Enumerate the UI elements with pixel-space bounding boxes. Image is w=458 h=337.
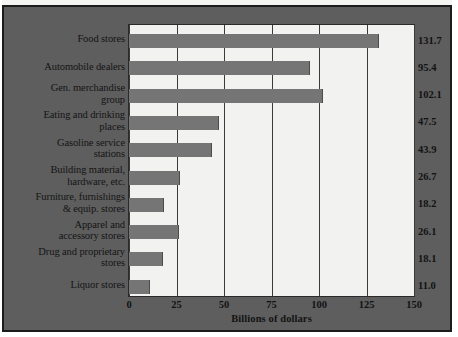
x-tick-label-100: 100 [311,299,327,311]
x-tick-label-125: 125 [359,299,375,311]
bar [129,280,150,294]
category-label-line: Building material, [50,164,125,175]
bottom-white-margin [0,332,458,337]
category-label-line: stores [9,257,125,269]
category-label: Apparel andaccessory stores [9,219,125,242]
chart-panel: Food storesAutomobile dealersGen. mercha… [2,5,452,332]
plot-area [128,24,415,297]
x-axis-tick-labels: 0255075100125150 [128,299,415,313]
category-label-line: Gasoline service [57,137,125,148]
category-label-line: stations [9,148,125,160]
bar-series [129,25,414,296]
bar [129,34,379,48]
x-tick-label-75: 75 [266,299,277,311]
category-label-line: accessory stores [9,230,125,242]
category-label: Food stores [9,33,125,45]
category-label: Gen. merchandisegroup [9,82,125,105]
category-label-line: & equip. stores [9,203,125,215]
category-label-line: Food stores [77,33,125,44]
category-label: Building material,hardware, etc. [9,164,125,187]
bar [129,89,323,103]
x-tick-label-25: 25 [171,299,182,311]
category-label: Eating and drinkingplaces [9,109,125,132]
bar [129,171,180,185]
bar [129,143,212,157]
category-label: Liquor stores [9,279,125,291]
category-label-line: Eating and drinking [43,109,125,120]
category-label-line: Apparel and [74,219,125,230]
category-label-line: Automobile dealers [44,61,125,72]
bar-chart-figure: Food storesAutomobile dealersGen. mercha… [0,0,458,337]
x-tick-label-50: 50 [219,299,230,311]
bar [129,116,219,130]
category-label: Gasoline servicestations [9,137,125,160]
category-label-line: Furniture, furnishings [36,191,125,202]
category-label-line: places [9,121,125,133]
category-label: Furniture, furnishings& equip. stores [9,191,125,214]
category-label-line: Gen. merchandise [51,82,125,93]
bar [129,61,310,75]
bar [129,252,163,266]
category-label-line: group [9,94,125,106]
category-label: Drug and proprietarystores [9,246,125,269]
x-tick-label-150: 150 [406,299,422,311]
category-label-line: hardware, etc. [9,176,125,188]
gridline-150 [414,25,415,296]
bar [129,225,179,239]
x-axis-title: Billions of dollars [128,313,415,324]
category-label-line: Drug and proprietary [38,246,125,257]
x-tick-label-0: 0 [126,299,131,311]
bar [129,198,164,212]
category-label: Automobile dealers [9,61,125,73]
category-label-line: Liquor stores [71,279,125,290]
right-white-margin [452,0,458,337]
category-axis-labels: Food storesAutomobile dealersGen. mercha… [8,24,127,297]
